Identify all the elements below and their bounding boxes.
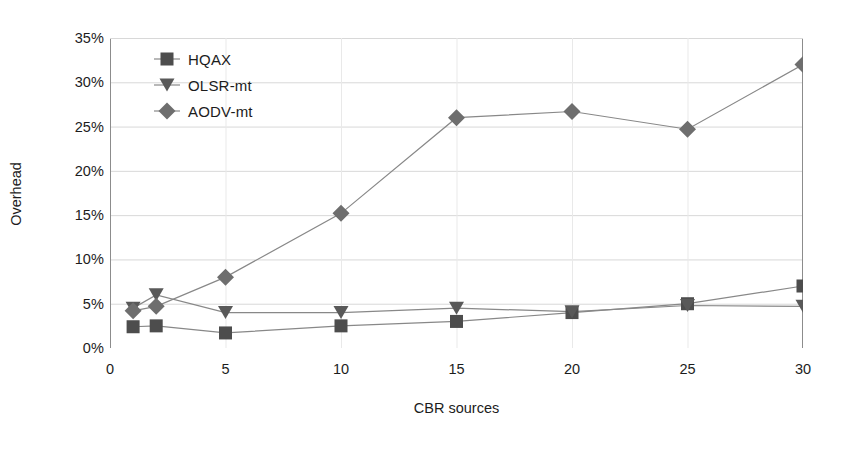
data-point	[127, 320, 140, 333]
chart-screenshot: Overhead 0%5%10%15%20%25%30%35% 05101520…	[0, 0, 847, 449]
series-line-hqax	[133, 286, 803, 333]
legend-item-aodv-mt: AODV-mt	[152, 98, 322, 124]
legend-marker-icon	[152, 50, 182, 68]
y-tick-label: 30%	[58, 75, 104, 90]
x-axis-title: CBR sources	[110, 400, 803, 416]
y-tick-label: 10%	[58, 252, 104, 267]
data-point	[797, 280, 804, 293]
y-tick-label: 0%	[58, 341, 104, 356]
data-point	[219, 326, 232, 339]
x-tick-label: 15	[437, 362, 477, 377]
data-point	[150, 319, 163, 332]
data-point	[333, 205, 350, 222]
data-point	[450, 315, 463, 328]
data-point	[217, 269, 234, 286]
legend-item-label: HQAX	[188, 51, 231, 68]
data-point	[335, 319, 348, 332]
data-point	[448, 109, 465, 126]
y-tick-label: 15%	[58, 208, 104, 223]
x-tick-label: 25	[668, 362, 708, 377]
y-tick-label: 25%	[58, 120, 104, 135]
x-tick-label: 30	[783, 362, 823, 377]
y-tick-label: 35%	[58, 31, 104, 46]
data-point	[564, 103, 581, 120]
legend-marker-icon	[152, 102, 182, 120]
legend-item-label: OLSR-mt	[188, 77, 252, 94]
chart-legend: HQAXOLSR-mtAODV-mt	[152, 46, 322, 124]
x-tick-label: 5	[206, 362, 246, 377]
y-tick-label: 20%	[58, 164, 104, 179]
legend-marker-icon	[152, 76, 182, 94]
x-tick-label: 10	[321, 362, 361, 377]
legend-item-olsr-mt: OLSR-mt	[152, 72, 322, 98]
data-point	[795, 56, 804, 73]
x-tick-label: 0	[90, 362, 130, 377]
legend-item-label: AODV-mt	[188, 103, 253, 120]
y-axis-ticks: 0%5%10%15%20%25%30%35%	[48, 0, 104, 449]
y-axis-title: Overhead	[8, 134, 24, 254]
x-axis-ticks: 051015202530	[110, 362, 803, 384]
y-tick-label: 5%	[58, 297, 104, 312]
x-tick-label: 20	[552, 362, 592, 377]
data-point	[148, 298, 165, 315]
legend-item-hqax: HQAX	[152, 46, 322, 72]
data-point	[679, 121, 696, 138]
